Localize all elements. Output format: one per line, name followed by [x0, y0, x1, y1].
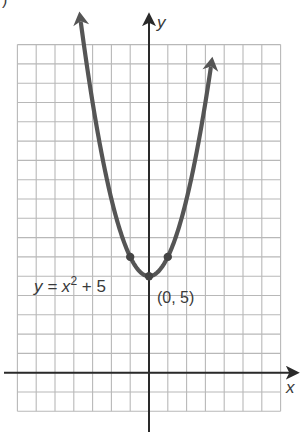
data-point: [145, 272, 153, 280]
equation-lhs: y = x: [33, 277, 71, 296]
parabola-graph: ) x y y = x2 + 5 (0, 5): [0, 0, 301, 439]
figure-corner-label: ): [2, 0, 7, 8]
y-axis-label: y: [156, 13, 167, 32]
data-point: [164, 253, 172, 261]
vertex-point-label: (0, 5): [157, 289, 194, 306]
equation-rhs: + 5: [77, 277, 106, 296]
equation-label: y = x2 + 5: [33, 274, 106, 296]
data-point: [126, 253, 134, 261]
parabola-curve: [81, 23, 211, 276]
x-axis-label: x: [285, 378, 295, 397]
